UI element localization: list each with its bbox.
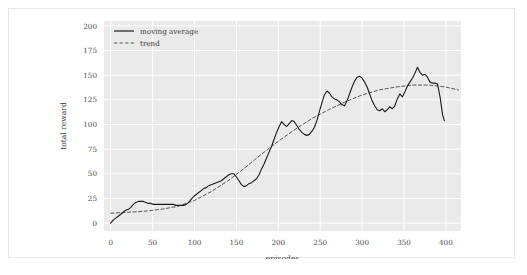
y-axis-tick-label: 75 — [88, 145, 98, 154]
x-axis-tick-label: 100 — [188, 238, 202, 247]
x-axis-tick-label: 200 — [271, 238, 285, 247]
x-axis-tick-label: 300 — [355, 238, 369, 247]
line-chart: 0255075100125150175200 05010015020025030… — [9, 9, 516, 259]
y-axis-tick-label: 175 — [83, 46, 97, 55]
x-axis-tick-label: 350 — [397, 238, 411, 247]
x-axis-tick-label: 400 — [439, 238, 453, 247]
y-axis-title: total reward — [59, 102, 68, 150]
x-axis-tick-label: 0 — [108, 238, 113, 247]
y-axis-tick-label: 0 — [92, 219, 97, 228]
figure-canvas: 0255075100125150175200 05010015020025030… — [8, 8, 515, 258]
y-axis-tick-label: 50 — [88, 169, 98, 178]
x-axis-tick-label: 250 — [313, 238, 327, 247]
plot-background — [104, 21, 461, 231]
x-axis-title: episodes — [266, 254, 300, 259]
y-axis-tick-labels: 0255075100125150175200 — [83, 22, 97, 228]
legend-label: moving average — [140, 27, 198, 36]
y-axis-tick-label: 25 — [88, 194, 98, 203]
x-axis-tick-labels: 050100150200250300350400 — [108, 238, 453, 247]
y-axis-tick-label: 125 — [83, 95, 97, 104]
plot-wrapper: 0255075100125150175200 05010015020025030… — [9, 9, 514, 257]
legend-label: trend — [140, 39, 160, 48]
x-axis-tick-label: 150 — [230, 238, 244, 247]
x-axis-tick-label: 50 — [148, 238, 158, 247]
y-axis-tick-label: 150 — [83, 71, 97, 80]
y-axis-tick-label: 100 — [83, 120, 97, 129]
y-axis-tick-label: 200 — [83, 22, 97, 31]
